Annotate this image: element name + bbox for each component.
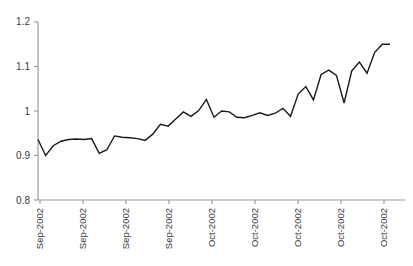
line-chart: 1.2 1.1 1 0.9 0.8 Sep-2002 Sep-2002 Sep-…	[0, 0, 413, 266]
x-axis-ticks	[40, 200, 384, 204]
plot-area	[0, 0, 413, 266]
data-series-line	[38, 44, 390, 155]
